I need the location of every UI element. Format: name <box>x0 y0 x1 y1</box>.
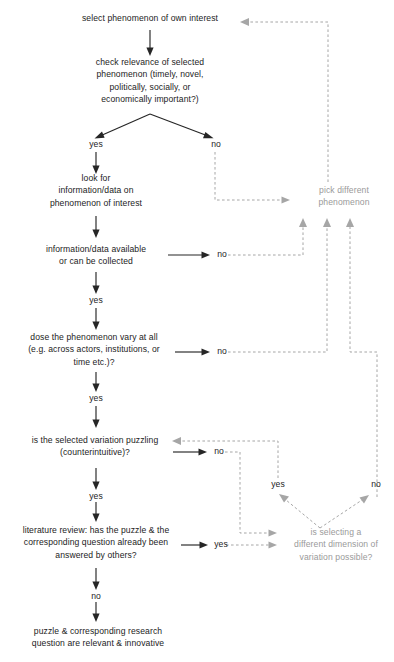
node-check-relevance: check relevance of selected phenomenon (… <box>62 56 238 106</box>
edge-infoavailable-to-yes <box>92 272 99 294</box>
label-puzzling-yes: yes <box>76 491 116 502</box>
label-vary-yes: yes <box>76 393 116 404</box>
label-lit-yes: yes <box>208 539 234 550</box>
edge-varyno-to-pickdifferent <box>228 218 331 352</box>
label-vary-no: no <box>210 346 234 357</box>
label-relevance-no: no <box>196 139 236 150</box>
edge-check-to-no <box>150 114 214 138</box>
edge-puzzling-to-yes <box>92 468 99 490</box>
label-dimension-yes: yes <box>262 479 294 490</box>
edge-select-to-check <box>146 30 153 56</box>
label-relevance-yes: yes <box>76 139 116 150</box>
edge-dimensionno-to-pickdifferent <box>346 218 377 497</box>
edge-infono-to-pickdifferent <box>228 218 307 255</box>
edge-varyyes-to-puzzling <box>92 406 99 428</box>
edge-infoyes-to-vary <box>92 308 99 330</box>
edge-dimensionyes-to-puzzling <box>172 437 278 478</box>
edge-pickdifferent-to-select <box>240 18 328 182</box>
label-info-no: no <box>210 249 234 260</box>
node-is-puzzling: is the selected variation puzzling (coun… <box>8 434 182 459</box>
edge-puzzlingno-to-isselecting <box>225 452 277 537</box>
edge-infoavailable-to-no <box>168 251 210 258</box>
label-dimension-no: no <box>362 479 390 490</box>
label-info-yes: yes <box>76 295 116 306</box>
node-information-available: information/data available or can be col… <box>20 243 172 268</box>
edge-puzzlingyes-to-literature <box>92 502 99 522</box>
edge-isselecting-to-dimyes <box>279 494 320 528</box>
node-select-phenomenon: select phenomenon of own interest <box>66 12 234 24</box>
node-look-for-information: look for information/data on phenomenon … <box>24 172 168 209</box>
node-pick-different-phenomenon: pick different phenomenon <box>296 184 392 209</box>
edge-vary-to-yes <box>92 372 99 392</box>
edge-lookfor-to-infoavailable <box>92 216 99 238</box>
node-does-vary: dose the phenomenon vary at all (e.g. ac… <box>6 331 182 368</box>
node-is-selecting-dimension: is selecting a different dimension of va… <box>281 526 391 563</box>
edge-litno-to-final <box>92 602 99 622</box>
edge-relevanceno-to-pickdifferent <box>215 152 290 204</box>
edge-yes-to-lookfor <box>92 152 99 174</box>
edge-literature-to-no <box>92 568 99 590</box>
label-puzzling-no: no <box>207 446 231 457</box>
node-literature-review: literature review: has the puzzle & the … <box>2 524 190 561</box>
edge-check-to-yes <box>95 114 151 138</box>
node-final-outcome: puzzle & corresponding research question… <box>14 625 182 650</box>
edge-isselecting-to-dimno <box>320 495 369 528</box>
label-lit-no: no <box>76 591 116 602</box>
